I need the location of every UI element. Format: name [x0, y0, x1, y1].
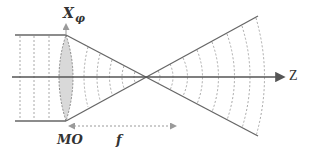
z-label: Z [289, 69, 298, 83]
x-phi-label: Xφ [63, 6, 85, 24]
incoming-wavefronts [20, 36, 49, 120]
objective-focusing-diagram [0, 0, 309, 153]
objective-lens [59, 35, 73, 121]
beam-envelope [15, 16, 258, 136]
objective-label: MO [57, 133, 83, 146]
focal-length-label: f [116, 133, 122, 146]
